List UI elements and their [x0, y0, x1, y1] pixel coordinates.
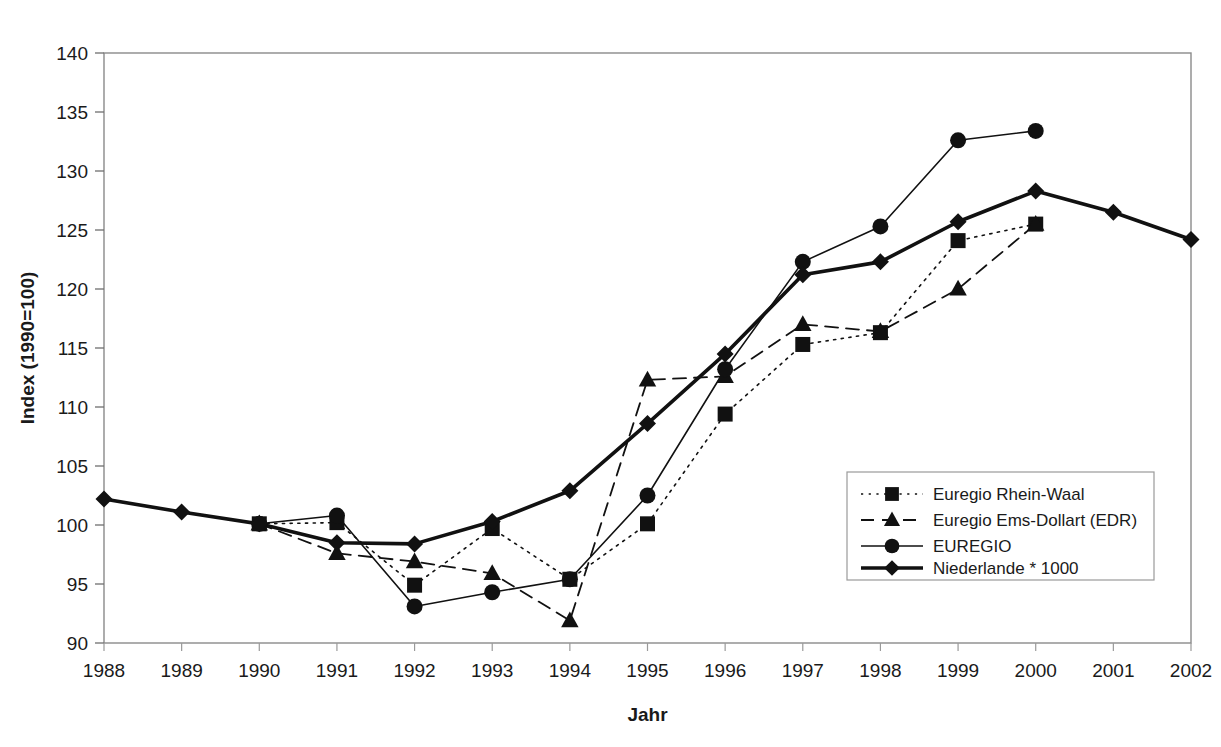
- diamond-marker: [950, 213, 967, 230]
- diamond-marker: [1105, 204, 1122, 221]
- x-axis-title: Jahr: [627, 704, 668, 725]
- diamond-marker: [1027, 183, 1044, 200]
- x-tick-label: 2000: [1015, 660, 1057, 681]
- circle-marker: [407, 598, 423, 614]
- x-tick-label: 1992: [393, 660, 435, 681]
- diamond-marker: [872, 253, 889, 270]
- x-tick-label: 1988: [83, 660, 125, 681]
- legend-label-1: Euregio Ems-Dollart (EDR): [933, 511, 1137, 530]
- x-tick-label: 1994: [549, 660, 592, 681]
- triangle-marker: [639, 371, 656, 387]
- triangle-marker: [949, 280, 966, 296]
- x-tick-label: 1997: [782, 660, 824, 681]
- x-tick-label: 2002: [1170, 660, 1212, 681]
- circle-marker: [950, 132, 966, 148]
- y-tick-label: 115: [58, 338, 88, 359]
- y-tick-label: 105: [56, 456, 88, 477]
- square-marker: [407, 578, 422, 593]
- y-tick-label: 130: [56, 161, 88, 182]
- chart-legend: Euregio Rhein-WaalEuregio Ems-Dollart (E…: [847, 472, 1154, 580]
- x-tick-label: 1993: [471, 660, 513, 681]
- legend-label-3: Niederlande * 1000: [933, 559, 1079, 578]
- circle-marker: [1028, 123, 1044, 139]
- y-tick-label: 110: [58, 397, 88, 418]
- legend-label-0: Euregio Rhein-Waal: [933, 485, 1085, 504]
- diamond-marker: [1183, 231, 1200, 248]
- x-axis-tick-labels: 1988198919901991199219931994199519961997…: [83, 660, 1212, 681]
- x-tick-label: 1991: [316, 660, 358, 681]
- diamond-marker: [406, 535, 423, 552]
- y-tick-label: 95: [67, 574, 88, 595]
- legend-label-2: EUREGIO: [933, 537, 1011, 556]
- chart-container: 9095100105110115120125130135140 19881989…: [0, 0, 1221, 747]
- square-marker: [885, 487, 899, 501]
- circle-marker: [484, 584, 500, 600]
- square-marker: [951, 233, 966, 248]
- x-tick-label: 2001: [1092, 660, 1134, 681]
- x-tick-label: 1996: [704, 660, 746, 681]
- triangle-marker: [794, 315, 811, 331]
- y-tick-label: 90: [67, 633, 88, 654]
- circle-marker: [640, 488, 656, 504]
- circle-marker: [885, 539, 900, 554]
- y-tick-label: 140: [56, 43, 88, 64]
- circle-marker: [562, 571, 578, 587]
- x-tick-label: 1995: [626, 660, 668, 681]
- circle-marker: [329, 508, 345, 524]
- y-tick-label: 135: [56, 102, 88, 123]
- diamond-marker: [328, 534, 345, 551]
- diamond-marker: [96, 491, 113, 508]
- circle-marker: [872, 218, 888, 234]
- y-axis-title: Index (1990=100): [17, 272, 38, 425]
- diamond-marker: [173, 504, 190, 521]
- y-tick-label: 120: [56, 279, 88, 300]
- x-tick-label: 1998: [859, 660, 901, 681]
- x-tick-label: 1989: [161, 660, 203, 681]
- x-tick-label: 1990: [238, 660, 280, 681]
- line-chart: 9095100105110115120125130135140 19881989…: [0, 0, 1221, 747]
- y-axis-tick-labels: 9095100105110115120125130135140: [56, 43, 88, 654]
- y-tick-label: 125: [56, 220, 88, 241]
- square-marker: [640, 516, 655, 531]
- square-marker: [795, 337, 810, 352]
- circle-marker: [717, 361, 733, 377]
- triangle-marker: [561, 611, 578, 627]
- square-marker: [718, 407, 733, 422]
- x-tick-label: 1999: [937, 660, 979, 681]
- y-tick-label: 100: [56, 515, 88, 536]
